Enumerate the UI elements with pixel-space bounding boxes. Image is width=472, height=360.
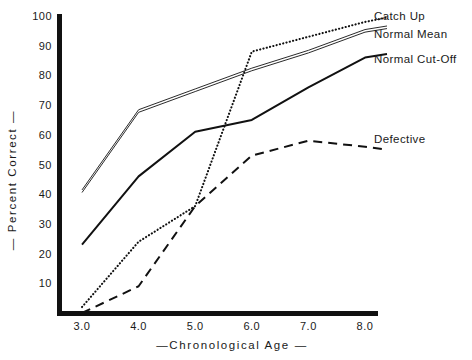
y-axis-title: — Percent Correct — bbox=[6, 110, 18, 250]
y-tick-label: 60 bbox=[39, 129, 52, 141]
x-tick-label: 6.0 bbox=[243, 320, 260, 332]
x-tick-label: 8.0 bbox=[357, 320, 374, 332]
y-tick-label: 100 bbox=[32, 10, 52, 22]
y-tick-label: 90 bbox=[39, 40, 52, 52]
y-tick-label: 50 bbox=[39, 159, 52, 171]
y-tick-label: 30 bbox=[39, 218, 52, 230]
x-tick-label: 4.0 bbox=[130, 320, 147, 332]
series-label-defective: Defective bbox=[374, 133, 426, 145]
y-tick-label: 40 bbox=[39, 188, 52, 200]
series-label-normal-mean: Normal Mean bbox=[374, 28, 447, 40]
x-tick-label: 3.0 bbox=[74, 320, 91, 332]
x-tick-label: 5.0 bbox=[187, 320, 204, 332]
series-label-catch-up: Catch Up bbox=[374, 10, 425, 22]
x-axis-title: —Chronological Age — bbox=[156, 339, 308, 351]
chart-figure: 102030405060708090100 3.04.05.06.07.08.0… bbox=[0, 0, 472, 360]
y-tick-label: 20 bbox=[39, 248, 52, 260]
chart-canvas: 102030405060708090100 3.04.05.06.07.08.0… bbox=[0, 0, 472, 360]
y-tick-label: 80 bbox=[39, 69, 52, 81]
series-label-normal-cut-off: Normal Cut-Off bbox=[374, 53, 457, 65]
y-tick-label: 10 bbox=[39, 277, 52, 289]
x-tick-label: 7.0 bbox=[300, 320, 317, 332]
y-tick-label: 70 bbox=[39, 99, 52, 111]
